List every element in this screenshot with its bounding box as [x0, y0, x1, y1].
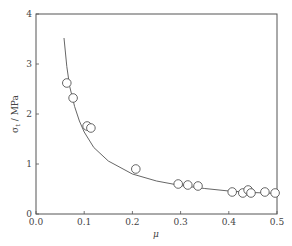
data-point: [184, 181, 193, 190]
data-points: [63, 79, 280, 198]
fit-curve-path: [64, 38, 277, 194]
x-tick-label: 0.5: [270, 217, 285, 227]
data-point: [228, 188, 237, 197]
data-point: [174, 180, 183, 189]
x-tick-label: 0.2: [125, 217, 139, 227]
data-point: [261, 188, 270, 197]
y-tick-label: 2: [26, 109, 32, 119]
y-tick-label: 4: [26, 9, 32, 19]
y-tick-label: 1: [26, 159, 32, 169]
y-axis-ticks: 01234: [26, 9, 39, 219]
x-axis-title: μ: [153, 229, 159, 239]
data-point: [247, 189, 256, 198]
data-point: [63, 79, 72, 88]
x-tick-label: 0.4: [222, 217, 237, 227]
x-tick-label: 0.3: [173, 217, 188, 227]
x-tick-label: 0.1: [77, 217, 91, 227]
data-point: [132, 165, 141, 174]
data-point: [271, 189, 280, 198]
plot-frame: [36, 14, 277, 214]
y-tick-label: 3: [26, 59, 32, 69]
data-point: [194, 182, 203, 191]
y-tick-label: 0: [26, 209, 32, 219]
data-point: [69, 94, 78, 103]
y-axis-title: σt / MPa: [10, 94, 22, 132]
svg-text:σt / MPa: σt / MPa: [10, 94, 22, 132]
x-axis-ticks: 0.00.10.20.30.40.5: [29, 211, 285, 227]
data-point: [87, 124, 96, 133]
fit-curve: [64, 38, 277, 194]
plot-area-border: [36, 14, 277, 214]
scatter-chart: 0.00.10.20.30.40.5 01234 μ σt / MPa: [0, 0, 292, 246]
y-axis-title-unit: / MPa: [10, 94, 20, 124]
